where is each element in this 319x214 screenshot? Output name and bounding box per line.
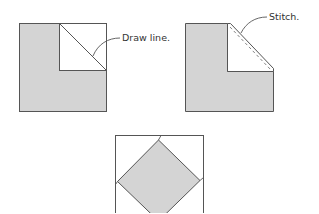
step-1-callout-label: Draw line.	[122, 32, 170, 43]
piecing-diagram: Draw line. Stitch.	[0, 0, 319, 213]
step-2-block: Stitch.	[186, 11, 300, 112]
step-3-block	[116, 136, 204, 214]
step-2-white-triangle	[228, 24, 274, 72]
step-2-callout-label: Stitch.	[269, 11, 299, 22]
step-2-leader-line	[241, 17, 267, 33]
step-1-block: Draw line.	[20, 24, 171, 112]
